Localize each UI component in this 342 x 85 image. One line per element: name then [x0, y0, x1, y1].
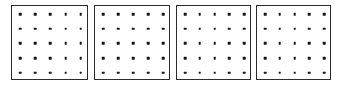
- grid-dot: [213, 42, 216, 45]
- panel-4: [256, 5, 331, 80]
- grid-dot: [49, 57, 52, 60]
- grid-dot: [184, 13, 187, 16]
- grid-dot: [132, 57, 135, 60]
- grid-dot: [147, 57, 150, 60]
- grid-dot: [162, 27, 165, 30]
- dot-grid: [177, 6, 250, 79]
- grid-dot: [184, 27, 187, 30]
- grid-dot: [102, 42, 105, 45]
- grid-dot: [80, 27, 83, 30]
- grid-dot: [34, 42, 37, 45]
- grid-dot: [64, 27, 67, 30]
- grid-dot: [34, 57, 37, 60]
- grid-dot: [162, 42, 165, 45]
- grid-dot: [264, 72, 267, 75]
- grid-dot: [102, 72, 105, 75]
- grid-dot: [102, 27, 105, 30]
- grid-dot: [64, 42, 67, 45]
- grid-dot: [132, 72, 135, 75]
- grid-dot: [19, 57, 22, 60]
- grid-dot: [49, 72, 52, 75]
- grid-dot: [34, 13, 37, 16]
- grid-dot: [49, 27, 52, 30]
- grid-dot: [308, 57, 311, 60]
- grid-dot: [243, 27, 246, 30]
- grid-dot: [147, 42, 150, 45]
- grid-dot: [64, 57, 67, 60]
- panel-3: [176, 5, 251, 80]
- grid-dot: [213, 57, 216, 60]
- grid-dot: [132, 42, 135, 45]
- grid-dot: [19, 27, 22, 30]
- grid-dot: [117, 72, 120, 75]
- grid-dot: [293, 57, 296, 60]
- figure-root: [0, 0, 342, 85]
- grid-dot: [279, 42, 282, 45]
- grid-dot: [279, 72, 282, 75]
- grid-dot: [323, 13, 326, 16]
- grid-dot: [308, 13, 311, 16]
- grid-dot: [19, 72, 22, 75]
- grid-dot: [279, 57, 282, 60]
- grid-dot: [102, 57, 105, 60]
- grid-dot: [80, 42, 83, 45]
- grid-dot: [132, 27, 135, 30]
- grid-dot: [293, 13, 296, 16]
- grid-dot: [264, 42, 267, 45]
- grid-dot: [213, 27, 216, 30]
- panel-1: [11, 5, 88, 80]
- grid-dot: [64, 72, 67, 75]
- dot-grid: [95, 6, 169, 79]
- grid-dot: [228, 72, 231, 75]
- grid-dot: [264, 57, 267, 60]
- grid-dot: [19, 13, 22, 16]
- grid-dot: [80, 13, 83, 16]
- grid-dot: [293, 27, 296, 30]
- grid-dot: [132, 13, 135, 16]
- grid-dot: [199, 72, 202, 75]
- grid-dot: [147, 27, 150, 30]
- grid-dot: [264, 27, 267, 30]
- grid-dot: [243, 13, 246, 16]
- dot-grid: [12, 6, 87, 79]
- grid-dot: [228, 42, 231, 45]
- grid-dot: [228, 57, 231, 60]
- grid-dot: [264, 13, 267, 16]
- grid-dot: [293, 72, 296, 75]
- grid-dot: [34, 72, 37, 75]
- grid-dot: [308, 72, 311, 75]
- grid-dot: [323, 72, 326, 75]
- grid-dot: [147, 13, 150, 16]
- grid-dot: [213, 72, 216, 75]
- grid-dot: [243, 57, 246, 60]
- grid-dot: [162, 72, 165, 75]
- grid-dot: [19, 42, 22, 45]
- grid-dot: [243, 72, 246, 75]
- grid-dot: [184, 57, 187, 60]
- grid-dot: [49, 13, 52, 16]
- grid-dot: [117, 13, 120, 16]
- grid-dot: [80, 57, 83, 60]
- grid-dot: [199, 13, 202, 16]
- grid-dot: [34, 27, 37, 30]
- grid-dot: [323, 42, 326, 45]
- grid-dot: [199, 27, 202, 30]
- grid-dot: [213, 13, 216, 16]
- grid-dot: [147, 72, 150, 75]
- grid-dot: [293, 42, 296, 45]
- grid-dot: [162, 57, 165, 60]
- grid-dot: [199, 57, 202, 60]
- grid-dot: [228, 27, 231, 30]
- grid-dot: [117, 42, 120, 45]
- grid-dot: [162, 13, 165, 16]
- grid-dot: [308, 27, 311, 30]
- grid-dot: [323, 57, 326, 60]
- grid-dot: [243, 42, 246, 45]
- grid-dot: [102, 13, 105, 16]
- grid-dot: [279, 13, 282, 16]
- grid-dot: [117, 57, 120, 60]
- grid-dot: [323, 27, 326, 30]
- grid-dot: [184, 42, 187, 45]
- panel-2: [94, 5, 170, 80]
- dot-grid: [257, 6, 330, 79]
